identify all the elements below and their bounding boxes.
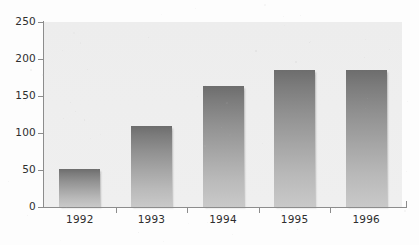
y-axis-tick-mark: [38, 96, 44, 97]
scan-speck: [404, 210, 406, 212]
x-axis-tick-label: 1992: [50, 214, 110, 225]
y-axis-tick-label: 150: [2, 90, 36, 101]
y-axis-tick-label: 200: [2, 53, 36, 64]
y-axis-tick-mark: [38, 207, 44, 208]
scan-speck: [283, 16, 284, 17]
y-axis-tick-mark: [38, 59, 44, 60]
y-axis-tick-label: 100: [2, 127, 36, 138]
y-axis-tick-label: 250: [2, 16, 36, 27]
scan-speck: [407, 101, 408, 102]
scan-speck: [27, 215, 28, 216]
x-axis-tick-label: 1996: [336, 214, 396, 225]
scan-speck: [188, 223, 189, 224]
x-axis-tick-mark: [330, 207, 331, 213]
y-axis-tick-label: 50: [2, 164, 36, 175]
y-axis-tick-mark: [38, 133, 44, 134]
x-axis-tick-label: 1995: [265, 214, 325, 225]
y-axis-line: [43, 21, 44, 208]
y-axis-tick-label-wrap: 100: [0, 127, 36, 139]
scan-speck: [30, 69, 32, 71]
scan-speck: [406, 171, 407, 172]
bar-1996: [346, 70, 387, 207]
x-axis-end-cap: [406, 201, 407, 208]
x-axis-tick-mark: [259, 207, 260, 213]
y-axis-tick-label-wrap: 150: [0, 90, 36, 102]
scan-speck: [195, 8, 196, 9]
scan-speck: [8, 181, 9, 182]
y-axis-tick-label-wrap: 50: [0, 164, 36, 176]
bar-chart-figure: 050100150200250 19921993199419951996: [0, 0, 419, 245]
scan-speck: [161, 14, 162, 15]
x-axis-tick-mark: [187, 207, 188, 213]
bar-1992: [59, 169, 100, 207]
scan-speck: [297, 229, 298, 230]
scan-speck: [300, 15, 301, 16]
y-axis-tick-mark: [38, 170, 44, 171]
scan-speck: [163, 241, 164, 242]
x-axis-tick-mark: [116, 207, 117, 213]
scan-speck: [264, 4, 266, 6]
scan-speck: [232, 234, 233, 235]
x-axis-tick-label: 1993: [121, 214, 181, 225]
y-axis-tick-label-wrap: 200: [0, 53, 36, 65]
y-axis-tick-label-wrap: 250: [0, 16, 36, 28]
bar-1993: [131, 126, 172, 207]
scan-speck: [281, 210, 282, 211]
x-axis-tick-label: 1994: [193, 214, 253, 225]
y-axis-tick-label-wrap: 0: [0, 201, 36, 213]
scan-speck: [335, 208, 336, 209]
x-axis-line: [43, 207, 407, 208]
scan-speck: [138, 232, 139, 233]
bar-1995: [274, 70, 315, 207]
y-axis-tick-mark: [38, 22, 44, 23]
bar-1994: [203, 86, 244, 207]
y-axis-tick-label: 0: [2, 201, 36, 212]
scan-speck: [60, 240, 61, 241]
